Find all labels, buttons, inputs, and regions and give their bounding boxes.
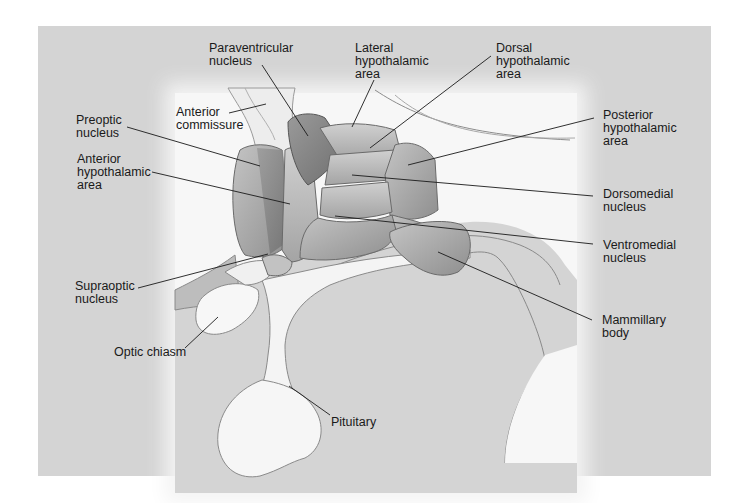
leader-lateral: [352, 80, 374, 127]
upper-curve-line: [375, 90, 570, 140]
label-preoptic-nucleus: Preoptic nucleus: [76, 114, 122, 140]
label-dorsomedial-nucleus: Dorsomedial nucleus: [603, 188, 673, 214]
label-supraoptic-nucleus: Supraoptic nucleus: [75, 280, 135, 306]
dorsal-hypothalamic-shape: [325, 150, 395, 185]
hypothalamus-diagram: Paraventricular nucleus Lateral hypothal…: [0, 0, 744, 503]
leader-posterior: [408, 118, 594, 165]
label-lateral-hypothalamic-area: Lateral hypothalamic area: [355, 42, 429, 81]
dorsomedial-shape: [320, 182, 392, 219]
label-anterior-hypothalamic-area: Anterior hypothalamic area: [77, 153, 151, 192]
posterior-hypothalamic-shape: [385, 143, 438, 219]
label-optic-chiasm: Optic chiasm: [114, 346, 186, 359]
label-posterior-hypothalamic-area: Posterior hypothalamic area: [603, 109, 677, 148]
label-anterior-commissure: Anterior commissure: [176, 106, 243, 132]
label-paraventricular-nucleus: Paraventricular nucleus: [209, 42, 293, 68]
label-dorsal-hypothalamic-area: Dorsal hypothalamic area: [496, 42, 570, 81]
label-ventromedial-nucleus: Ventromedial nucleus: [603, 239, 676, 265]
label-pituitary: Pituitary: [331, 416, 376, 429]
label-mammillary-body: Mammillary body: [602, 314, 666, 340]
